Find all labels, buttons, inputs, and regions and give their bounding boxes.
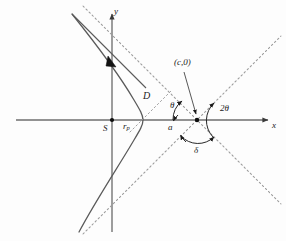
center-leader-line — [184, 72, 196, 114]
impact-parameter-group — [130, 90, 172, 132]
delta-arc-start-tick — [181, 135, 186, 142]
center-point-dot — [195, 118, 199, 122]
perihelion-label: rp — [123, 122, 130, 132]
center-point-label: (c,0) — [174, 58, 191, 67]
hyperbola-orbit-figure: y x S rp D (c,0) θ a 2θ δ — [0, 0, 286, 241]
delta-arc — [181, 136, 214, 143]
y-axis-label: y — [114, 7, 118, 16]
semi-axis-label-a: a — [168, 123, 173, 132]
perihelion-label-sub: p — [127, 124, 130, 131]
focus-point-dot — [110, 118, 114, 122]
delta-label: δ — [194, 146, 198, 155]
diagram-canvas — [0, 0, 286, 241]
focus-label-S: S — [103, 124, 108, 133]
impact-parameter-segment — [130, 90, 172, 132]
center-leader-group — [184, 72, 196, 114]
incoming-trajectory-line — [72, 14, 146, 88]
two-theta-label: 2θ — [220, 104, 229, 113]
impact-parameter-label-D: D — [143, 91, 150, 101]
trajectory-direction-arrow — [106, 56, 116, 67]
theta-label: θ — [170, 101, 174, 110]
incoming-trajectory-group — [72, 14, 146, 88]
x-axis-label: x — [272, 121, 276, 130]
delta-arc-group — [181, 135, 214, 143]
